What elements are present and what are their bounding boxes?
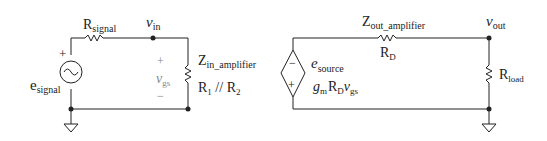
output-circuit: − + esource gmRDvgs Zout_amplifier RD vo… — [281, 13, 524, 132]
wire — [103, 38, 188, 65]
rd-label: RD — [380, 45, 396, 62]
resistor-zin-icon — [185, 65, 191, 83]
amplifier-equivalent-circuit: + esignal Rsignal vin + vgs − Zin_amplif… — [0, 0, 547, 141]
wire — [293, 38, 378, 50]
node-vout — [487, 36, 492, 41]
vgs-label: vgs — [156, 71, 171, 88]
zin-label: Zin_amplifier — [198, 53, 257, 70]
source-label: esignal — [30, 77, 61, 95]
vgs-minus: − — [157, 89, 164, 103]
resistor-signal-icon — [85, 35, 103, 41]
gain-expression: gmRDvgs — [313, 79, 359, 96]
wire — [71, 38, 85, 55]
zin-value: R1 // R2 — [198, 80, 240, 97]
input-circuit: + esignal Rsignal vin + vgs − Zin_amplif… — [30, 14, 257, 132]
sine-wave-icon — [64, 69, 78, 75]
ground-icon — [482, 124, 496, 132]
node-vin — [151, 36, 156, 41]
wire — [71, 83, 188, 109]
wire — [396, 38, 489, 65]
ground-icon — [64, 124, 78, 132]
node — [186, 107, 191, 112]
dep-minus: − — [289, 56, 296, 70]
source-plus: + — [59, 46, 66, 61]
vgs-plus: + — [157, 54, 164, 68]
rload-label: Rload — [499, 67, 524, 84]
resistor-rd-icon — [378, 35, 396, 41]
zout-label: Zout_amplifier — [362, 14, 426, 31]
vout-label: vout — [486, 13, 506, 31]
esource-label: esource — [311, 55, 344, 74]
resistor-load-icon — [486, 65, 492, 83]
vin-label: vin — [146, 14, 160, 32]
series-resistor-label: Rsignal — [83, 17, 116, 34]
dep-plus: + — [288, 78, 295, 92]
